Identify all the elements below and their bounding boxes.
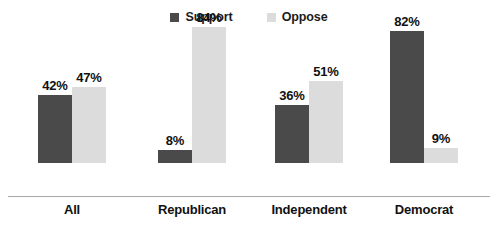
bar-value-independent-oppose: 51%	[296, 65, 356, 78]
category-label-republican: Republican	[136, 203, 248, 216]
bar-republican-oppose	[192, 27, 226, 163]
category-label-all: All	[16, 203, 128, 216]
bar-group-all: 42% 47% All	[16, 0, 128, 163]
bar-independent-oppose	[309, 81, 343, 163]
bar-all-support	[38, 95, 72, 163]
bar-group-republican-bars: 8% 84%	[136, 0, 248, 163]
bar-wrap-all-oppose: 47%	[72, 0, 106, 163]
bar-group-republican: 8% 84% Republican	[136, 0, 248, 163]
bar-wrap-democrat-oppose: 9%	[424, 0, 458, 163]
bar-independent-support	[275, 105, 309, 163]
bar-group-democrat-bars: 82% 9%	[368, 0, 480, 163]
bar-wrap-republican-oppose: 84%	[192, 0, 226, 163]
bar-wrap-independent-support: 36%	[275, 0, 309, 163]
bar-group-democrat: 82% 9% Democrat	[368, 0, 480, 163]
category-label-democrat: Democrat	[368, 203, 480, 216]
bar-value-democrat-oppose: 9%	[411, 132, 471, 145]
bar-wrap-republican-support: 8%	[158, 0, 192, 163]
bar-all-oppose	[72, 87, 106, 163]
bar-group-independent: 36% 51% Independent	[253, 0, 365, 163]
bar-value-republican-oppose: 84%	[179, 11, 239, 24]
bar-group-all-bars: 42% 47%	[16, 0, 128, 163]
grouped-bar-chart: Support Oppose 42% 47% All	[0, 0, 498, 231]
bar-democrat-oppose	[424, 148, 458, 163]
bar-group-independent-bars: 36% 51%	[253, 0, 365, 163]
bar-republican-support	[158, 150, 192, 163]
bar-wrap-independent-oppose: 51%	[309, 0, 343, 163]
plot-area: 42% 47% All 8% 84%	[0, 0, 498, 197]
bar-value-all-oppose: 47%	[59, 71, 119, 84]
x-axis-baseline	[8, 196, 490, 197]
category-label-independent: Independent	[253, 203, 365, 216]
